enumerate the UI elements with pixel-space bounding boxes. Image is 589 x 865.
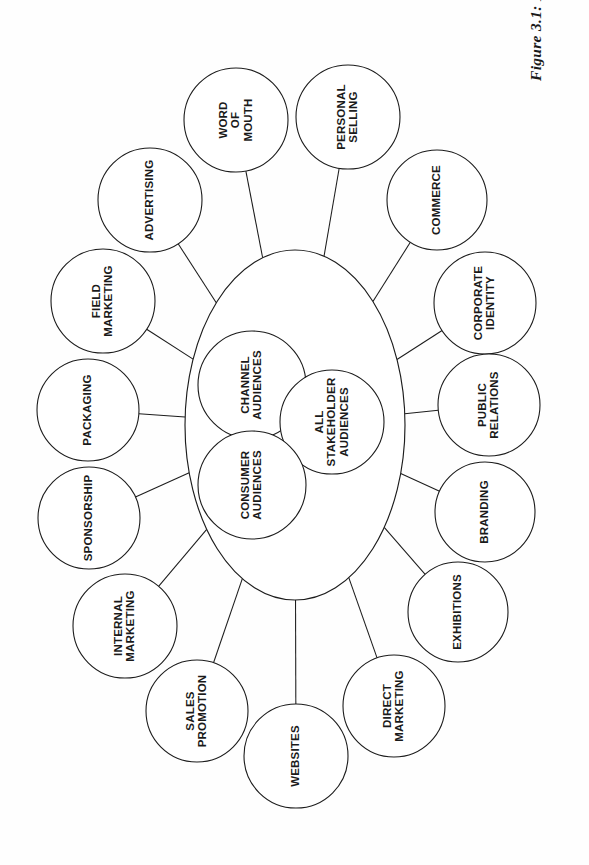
node-label: PERSONALSELLING (335, 84, 360, 150)
node-label: PACKAGING (81, 374, 93, 445)
spoke-word-of-mouth (246, 171, 263, 258)
svg-text:STAKEHOLDER: STAKEHOLDER (325, 377, 337, 466)
node-advertising: ADVERTISING (98, 148, 202, 252)
node-label: BRANDING (478, 480, 490, 544)
spoke-corporate-identity (397, 331, 442, 360)
node-label: CONSUMERAUDIENCES (239, 450, 264, 520)
svg-text:INTERNAL: INTERNAL (112, 596, 124, 656)
spoke-internal-marketing (159, 529, 207, 586)
svg-text:SALES: SALES (184, 691, 196, 730)
spoke-field-marketing (147, 329, 193, 359)
node-direct-marketing: DIRECTMARKETING (343, 655, 445, 757)
node-label: COMMERCE (430, 165, 442, 235)
node-public-relations: PUBLICRELATIONS (438, 354, 540, 456)
svg-text:PUBLIC: PUBLIC (476, 383, 488, 427)
svg-text:BRANDING: BRANDING (478, 480, 490, 544)
node-sales-promotion: SALESPROMOTION (146, 660, 248, 762)
svg-text:EXHIBITIONS: EXHIBITIONS (451, 574, 463, 650)
svg-text:CONSUMER: CONSUMER (239, 450, 251, 519)
node-label: EXHIBITIONS (451, 574, 463, 650)
svg-text:ALL: ALL (313, 411, 325, 434)
spoke-public-relations (405, 410, 439, 413)
node-commerce: COMMERCE (387, 150, 487, 250)
node-websites: WEBSITES (244, 704, 348, 808)
node-field-marketing: FIELDMARKETING (51, 249, 155, 353)
svg-text:PERSONAL: PERSONAL (335, 84, 347, 150)
svg-text:SPONSORSHIP: SPONSORSHIP (82, 475, 94, 562)
svg-text:CORPORATE: CORPORATE (472, 266, 484, 341)
spoke-branding (401, 473, 440, 491)
svg-text:PACKAGING: PACKAGING (81, 374, 93, 445)
svg-text:AUDIENCES: AUDIENCES (251, 350, 263, 420)
svg-text:AUDIENCES: AUDIENCES (251, 450, 263, 520)
spoke-sales-promotion (214, 579, 243, 663)
svg-text:ADVERTISING: ADVERTISING (143, 160, 155, 241)
node-exhibitions: EXHIBITIONS (408, 562, 508, 662)
spoke-personal-selling (324, 168, 339, 256)
audience-core: CHANNELAUDIENCESALLSTAKEHOLDERAUDIENCESC… (185, 250, 405, 600)
svg-text:PROMOTION: PROMOTION (196, 675, 208, 748)
svg-text:CHANNEL: CHANNEL (239, 356, 251, 414)
svg-text:FIELD: FIELD (90, 284, 102, 318)
spoke-packaging (139, 414, 185, 417)
svg-text:MOUTH: MOUTH (242, 98, 254, 141)
node-consumer-audiences: CONSUMERAUDIENCES (198, 431, 306, 539)
svg-text:MARKETING: MARKETING (393, 670, 405, 741)
svg-text:IDENTITY: IDENTITY (484, 276, 496, 330)
svg-text:WEBSITES: WEBSITES (289, 725, 301, 787)
spoke-sponsorship (135, 473, 189, 497)
node-label: WEBSITES (289, 725, 301, 787)
spoke-direct-marketing (349, 578, 377, 658)
svg-text:MARKETING: MARKETING (102, 265, 114, 336)
node-label: CORPORATEIDENTITY (472, 266, 497, 341)
spoke-commerce (373, 242, 410, 301)
promotional-tools-diagram: WORDOFMOUTHPERSONALSELLINGCOMMERCECORPOR… (0, 0, 589, 865)
figure-caption: Figure 3.1: Promotional tools (527, 0, 553, 81)
svg-text:MARKETING: MARKETING (124, 590, 136, 661)
node-label: CHANNELAUDIENCES (239, 350, 264, 420)
spoke-exhibitions (384, 527, 425, 574)
node-label: SPONSORSHIP (82, 475, 94, 562)
node-packaging: PACKAGING (37, 359, 139, 461)
node-branding: BRANDING (435, 462, 535, 562)
node-internal-marketing: INTERNALMARKETING (73, 574, 177, 678)
spoke-advertising (178, 244, 216, 303)
node-sponsorship: SPONSORSHIP (38, 467, 140, 569)
svg-text:SELLING: SELLING (347, 91, 359, 142)
svg-text:RELATIONS: RELATIONS (488, 371, 500, 439)
svg-text:AUDIENCES: AUDIENCES (338, 387, 350, 457)
node-label: INTERNALMARKETING (112, 590, 137, 661)
figure-page: WORDOFMOUTHPERSONALSELLINGCOMMERCECORPOR… (0, 0, 589, 865)
svg-text:WORD: WORD (217, 101, 229, 138)
svg-text:OF: OF (229, 112, 241, 128)
node-personal-selling: PERSONALSELLING (296, 65, 400, 169)
svg-text:DIRECT: DIRECT (381, 684, 393, 728)
node-label: ADVERTISING (143, 160, 155, 241)
node-corporate-identity: CORPORATEIDENTITY (434, 252, 536, 354)
node-word-of-mouth: WORDOFMOUTH (184, 68, 288, 172)
svg-text:COMMERCE: COMMERCE (430, 165, 442, 235)
